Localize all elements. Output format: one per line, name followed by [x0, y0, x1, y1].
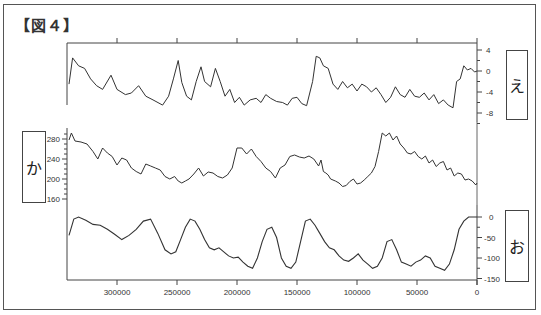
- svg-text:250000: 250000: [164, 288, 191, 297]
- svg-text:0: 0: [475, 288, 480, 297]
- label-box-e: え: [506, 50, 528, 120]
- series-ka-line: [69, 133, 477, 187]
- chart-area: 30000025000020000015000010000050000040-4…: [0, 0, 541, 315]
- svg-text:200: 200: [47, 175, 61, 184]
- y-ticks: [62, 50, 482, 279]
- svg-text:280: 280: [47, 135, 61, 144]
- svg-text:-8: -8: [486, 109, 494, 118]
- label-ka: か: [26, 155, 42, 179]
- label-box-o: お: [505, 210, 529, 282]
- series-o-line: [69, 217, 477, 270]
- svg-text:300000: 300000: [104, 288, 131, 297]
- label-e: え: [509, 73, 525, 97]
- x-ticks: [117, 38, 477, 285]
- svg-text:-4: -4: [486, 88, 494, 97]
- svg-text:150000: 150000: [284, 288, 311, 297]
- label-box-ka: か: [22, 131, 46, 203]
- series-e-line: [69, 56, 477, 108]
- svg-text:-150: -150: [484, 275, 501, 284]
- svg-text:200000: 200000: [224, 288, 251, 297]
- svg-text:240: 240: [47, 155, 61, 164]
- svg-text:50000: 50000: [406, 288, 429, 297]
- label-o: お: [509, 234, 525, 258]
- svg-text:0: 0: [489, 213, 494, 222]
- svg-text:160: 160: [47, 195, 61, 204]
- svg-text:100000: 100000: [344, 288, 371, 297]
- svg-text:0: 0: [486, 67, 491, 76]
- svg-text:-100: -100: [484, 254, 501, 263]
- svg-text:4: 4: [486, 46, 491, 55]
- svg-text:-50: -50: [484, 234, 496, 243]
